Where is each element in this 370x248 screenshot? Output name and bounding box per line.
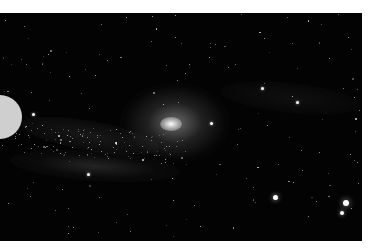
- faint-star: [233, 227, 235, 229]
- faint-star: [302, 170, 303, 171]
- faint-star: [354, 97, 355, 98]
- faint-star: [181, 157, 183, 159]
- faint-star: [49, 100, 50, 101]
- faint-star: [124, 142, 125, 143]
- faint-star: [311, 197, 313, 199]
- faint-star: [165, 159, 166, 160]
- faint-star: [48, 54, 49, 55]
- faint-star: [269, 52, 270, 53]
- faint-star: [348, 37, 349, 38]
- faint-star: [253, 199, 255, 201]
- faint-star: [62, 189, 63, 190]
- faint-star: [267, 125, 268, 126]
- faint-star: [186, 219, 187, 220]
- faint-star: [151, 137, 152, 138]
- faint-star: [181, 43, 182, 44]
- faint-star: [130, 231, 131, 232]
- faint-star: [338, 14, 339, 15]
- faint-star: [93, 128, 94, 129]
- faint-star: [156, 155, 157, 156]
- faint-star: [127, 214, 128, 215]
- faint-star: [42, 63, 44, 65]
- faint-star: [322, 119, 323, 120]
- faint-star: [28, 38, 29, 39]
- faint-star: [80, 134, 81, 135]
- faint-star: [153, 92, 155, 94]
- faint-star: [116, 149, 117, 150]
- faint-star: [67, 135, 68, 136]
- faint-star: [301, 150, 303, 152]
- faint-star: [46, 140, 47, 141]
- faint-star: [33, 182, 34, 183]
- faint-star: [34, 144, 35, 145]
- faint-star: [70, 136, 71, 137]
- faint-star: [24, 26, 25, 27]
- faint-star: [7, 91, 9, 93]
- faint-star: [18, 145, 19, 146]
- faint-star: [15, 138, 16, 139]
- galaxy-arm-right: [219, 76, 361, 120]
- faint-star: [15, 136, 16, 137]
- faint-star: [224, 46, 226, 48]
- faint-star: [159, 155, 160, 156]
- faint-star: [78, 131, 79, 132]
- faint-star: [60, 139, 62, 141]
- faint-star: [357, 162, 358, 163]
- faint-star: [101, 151, 102, 152]
- faint-star: [83, 130, 84, 131]
- star: [296, 101, 299, 104]
- faint-star: [177, 80, 179, 82]
- faint-star: [308, 20, 310, 22]
- faint-star: [55, 210, 56, 211]
- faint-star: [359, 110, 360, 111]
- faint-star: [289, 137, 290, 138]
- faint-star: [156, 28, 158, 30]
- faint-star: [355, 118, 357, 120]
- faint-star: [8, 203, 9, 204]
- faint-star: [27, 188, 28, 189]
- faint-star: [228, 67, 229, 68]
- faint-star: [329, 58, 330, 59]
- faint-star: [215, 44, 216, 45]
- star: [340, 211, 344, 215]
- faint-star: [11, 64, 12, 65]
- faint-star: [163, 104, 164, 105]
- faint-star: [161, 142, 162, 143]
- faint-star: [186, 164, 187, 165]
- faint-star: [321, 24, 322, 25]
- faint-star: [46, 146, 48, 148]
- galaxy-nucleus: [160, 117, 182, 131]
- faint-star: [44, 133, 46, 135]
- faint-star: [58, 132, 59, 133]
- faint-star: [151, 179, 152, 180]
- faint-star: [219, 164, 221, 166]
- faint-star: [185, 73, 186, 74]
- faint-star: [210, 47, 211, 48]
- faint-star: [246, 178, 247, 179]
- faint-star: [151, 140, 152, 141]
- faint-star: [166, 225, 167, 226]
- faint-star: [30, 196, 31, 197]
- faint-star: [42, 125, 43, 126]
- faint-star: [210, 43, 211, 44]
- faint-star: [173, 236, 174, 237]
- faint-star: [216, 174, 217, 175]
- faint-star: [146, 136, 147, 137]
- faint-star: [257, 167, 259, 169]
- faint-star: [68, 208, 69, 209]
- faint-star: [113, 147, 114, 148]
- faint-star: [53, 151, 54, 152]
- faint-star: [58, 135, 60, 137]
- faint-star: [84, 129, 85, 130]
- faint-star: [351, 208, 353, 210]
- faint-star: [293, 182, 294, 183]
- faint-star: [178, 102, 179, 103]
- faint-star: [45, 147, 46, 148]
- star: [32, 113, 35, 116]
- faint-star: [37, 128, 38, 129]
- star: [343, 200, 349, 206]
- faint-star: [200, 226, 201, 227]
- faint-star: [237, 144, 238, 145]
- faint-star: [357, 89, 358, 90]
- faint-star: [41, 153, 42, 154]
